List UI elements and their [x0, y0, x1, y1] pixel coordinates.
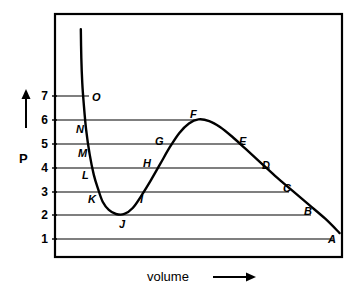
point-label-k: K	[88, 194, 96, 205]
point-label-a: A	[328, 234, 336, 245]
y-tick-label-5: 5	[34, 138, 48, 150]
y-tick-label-4: 4	[34, 162, 48, 174]
point-label-h: H	[143, 158, 151, 169]
y-tick-label-1: 1	[34, 233, 48, 245]
point-label-i: I	[140, 194, 143, 205]
y-axis-arrow	[22, 89, 31, 128]
point-label-o: O	[92, 92, 101, 103]
point-label-n: N	[76, 124, 84, 135]
plot-canvas	[0, 0, 357, 293]
pv-isotherm-figure: 7 6 5 4 3 2 1 P volume A B C D E F G H I…	[0, 0, 357, 293]
plot-frame	[55, 14, 342, 257]
y-tick-label-2: 2	[34, 209, 48, 221]
y-axis-label: P	[19, 152, 28, 165]
point-label-g: G	[155, 136, 164, 147]
point-label-f: F	[190, 109, 197, 120]
point-label-j: J	[119, 219, 125, 230]
point-label-m: M	[78, 148, 87, 159]
point-label-l: L	[82, 170, 89, 181]
x-axis-label: volume	[147, 270, 189, 283]
y-tick-label-3: 3	[34, 186, 48, 198]
point-label-d: D	[262, 160, 270, 171]
y-tick-label-6: 6	[34, 114, 48, 126]
point-label-b: B	[304, 206, 312, 217]
point-label-e: E	[239, 136, 246, 147]
point-label-c: C	[283, 183, 291, 194]
y-tick-label-7: 7	[34, 90, 48, 102]
x-axis-arrow	[213, 273, 256, 282]
